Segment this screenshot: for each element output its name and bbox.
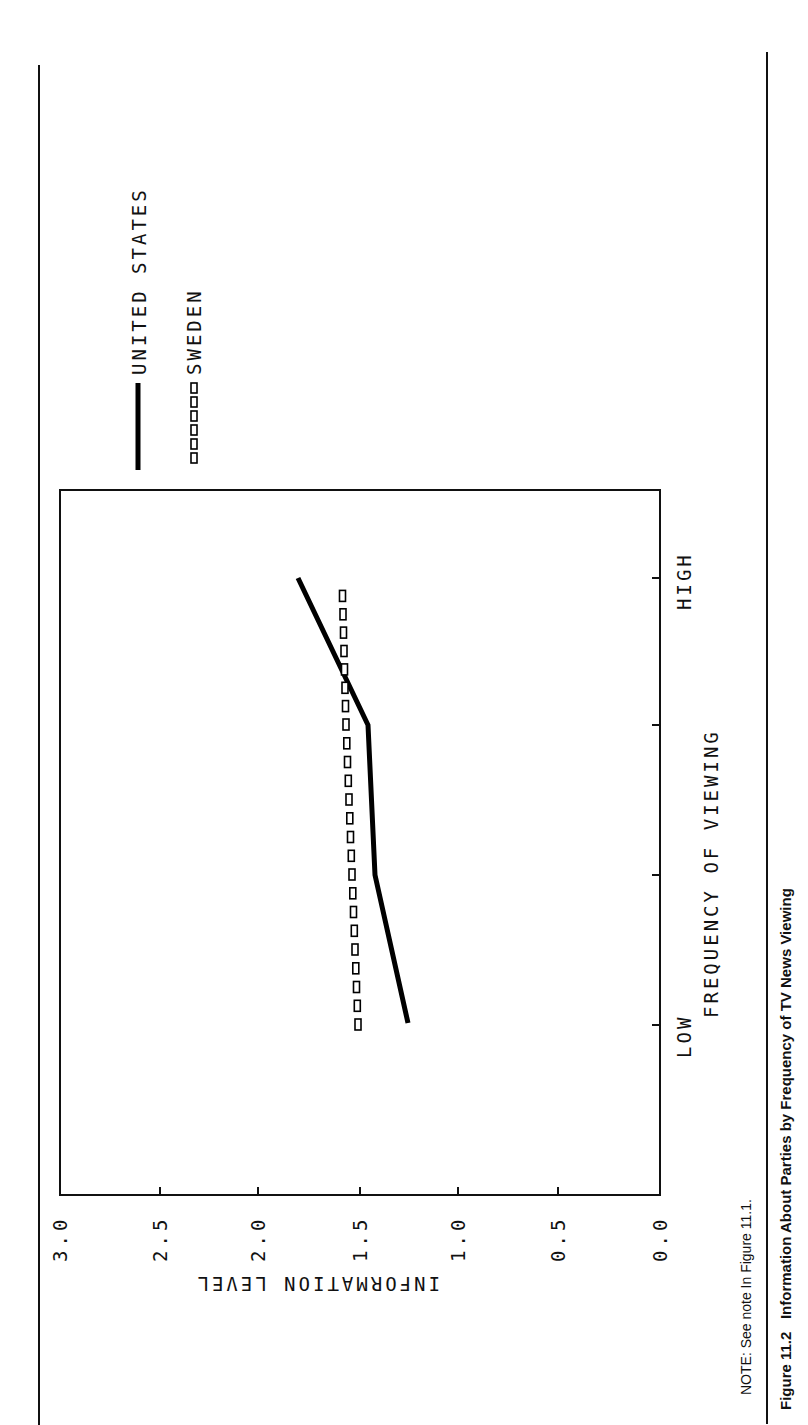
y-axis-label: INFORMATION LEVEL — [195, 1273, 440, 1295]
y-tick-label: 0.0 — [649, 1216, 671, 1262]
y-tick-label: 2.5 — [149, 1216, 171, 1262]
legend-label-sweden: SWEDEN — [183, 288, 205, 375]
x-axis-ticks — [652, 578, 660, 1025]
figure-note: NOTE: See note In Figure 11.1. — [738, 1199, 754, 1395]
y-tick-label: 1.5 — [349, 1216, 371, 1262]
y-tick-label: 0.5 — [547, 1216, 569, 1262]
y-tick-label: 1.0 — [447, 1216, 469, 1262]
x-tick-high: HIGH — [673, 552, 695, 610]
figure-number: Figure 11.2 — [777, 1332, 794, 1410]
legend-square-marker-icon — [191, 383, 197, 463]
figure-caption: Figure 11.2 Information About Parties by… — [777, 888, 794, 1410]
y-tick-label: 3.0 — [49, 1216, 71, 1262]
x-tick-low: LOW — [673, 1015, 695, 1058]
x-axis-label: FREQUENCY OF VIEWING — [700, 729, 722, 1018]
series-united-states — [298, 578, 408, 1023]
y-tick-label: 2.0 — [247, 1216, 269, 1262]
plot-frame — [60, 490, 660, 1195]
figure-title: Information About Parties by Frequency o… — [777, 888, 794, 1319]
y-axis-ticks — [160, 1187, 558, 1195]
legend-label-united-states: UNITED STATES — [128, 187, 150, 375]
series-sweden — [340, 590, 362, 1030]
